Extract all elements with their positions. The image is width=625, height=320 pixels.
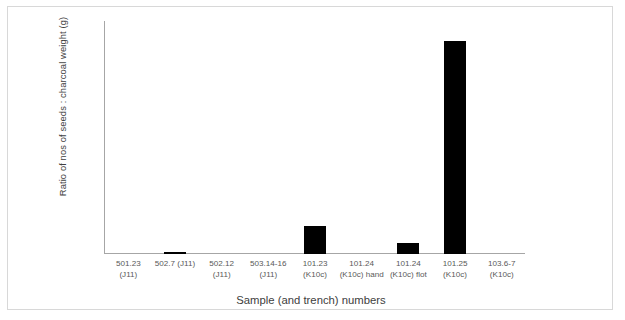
x-tick-label: 502.7 (J11) (152, 258, 199, 280)
x-tick-label: 101.24 (K10c) hand (338, 258, 385, 280)
x-tick-label: 502.12 (J11) (198, 258, 245, 280)
bar-slot (152, 21, 199, 254)
x-axis-title: Sample (and trench) numbers (8, 294, 614, 306)
x-tick-label: 101.23 (K10c) (292, 258, 339, 280)
bar-slot (198, 21, 245, 254)
x-tick-label: 503.14-16 (J11) (245, 258, 292, 280)
bar-slot (385, 21, 432, 254)
x-tick-label: 501.23 (J11) (105, 258, 152, 280)
bar-slot (338, 21, 385, 254)
bar-slot (245, 21, 292, 254)
x-tick-label: 101.24 (K10c) flot (385, 258, 432, 280)
y-axis-title: Ratio of nos of seeds : charcoal weight … (57, 0, 68, 225)
bar[interactable] (164, 252, 186, 254)
bar[interactable] (397, 243, 419, 254)
bar-slot (478, 21, 525, 254)
x-tick-label: 103.6-7 (K10c) (478, 258, 525, 280)
bar-slot (432, 21, 479, 254)
bar-slot (292, 21, 339, 254)
chart-figure: Ratio of nos of seeds : charcoal weight … (7, 6, 613, 310)
bar[interactable] (444, 41, 466, 254)
bar[interactable] (304, 226, 326, 254)
bar-series (105, 21, 525, 254)
x-tick-labels: 501.23 (J11)502.7 (J11)502.12 (J11)503.1… (105, 258, 525, 280)
plot-area: 050100150200250300350 (104, 21, 524, 254)
x-tick-label: 101.25 (K10c) (432, 258, 479, 280)
bar-slot (105, 21, 152, 254)
